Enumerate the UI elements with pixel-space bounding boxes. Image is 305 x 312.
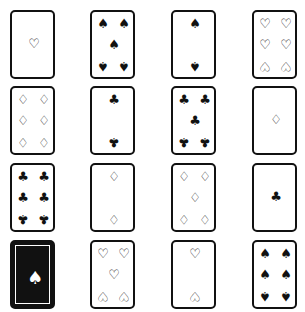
card-clubs-2[interactable]: ♣♣ [90, 86, 135, 155]
heart-icon: ♡ [97, 290, 109, 302]
card-diamonds-2[interactable]: ♢♢ [90, 163, 135, 232]
card-spades-5[interactable]: ♠♠♠♠♠ [90, 10, 135, 79]
club-icon: ♣ [17, 192, 29, 204]
diamond-icon: ♢ [270, 114, 282, 126]
card-diamonds-6[interactable]: ♢♢♢♢♢♢ [10, 86, 55, 155]
club-icon: ♣ [178, 136, 190, 148]
card-spades-2[interactable]: ♠♠ [171, 10, 216, 79]
club-icon: ♣ [17, 171, 29, 183]
spade-icon: ♠ [189, 60, 201, 72]
club-icon: ♣ [38, 213, 50, 225]
club-icon: ♣ [108, 94, 120, 106]
card-clubs-1[interactable]: ♣ [252, 163, 297, 232]
diamond-icon: ♢ [17, 115, 29, 127]
spade-icon: ♠ [259, 248, 271, 260]
card-hearts-5[interactable]: ♡♡♡♡♡ [90, 240, 135, 309]
card-grid: ♡♠♠♠♠♠♠♠♡♡♡♡♡♡♢♢♢♢♢♢♣♣♣♣♣♣♣♢♣♣♣♣♣♣♢♢♢♢♢♢… [0, 0, 305, 312]
heart-icon: ♡ [280, 18, 292, 30]
spade-icon: ♠ [118, 18, 130, 30]
heart-icon: ♡ [259, 60, 271, 72]
spade-icon: ♠ [280, 290, 292, 302]
spade-icon: ♠ [280, 269, 292, 281]
heart-icon: ♡ [108, 269, 120, 281]
card-back-0[interactable]: ♠ [10, 240, 55, 309]
card-diamonds-1[interactable]: ♢ [252, 86, 297, 155]
club-icon: ♣ [17, 213, 29, 225]
spade-icon: ♠ [108, 39, 120, 51]
heart-icon: ♡ [280, 60, 292, 72]
diamond-icon: ♢ [17, 94, 29, 106]
diamond-icon: ♢ [38, 94, 50, 106]
heart-icon: ♡ [189, 290, 201, 302]
diamond-icon: ♢ [38, 136, 50, 148]
heart-icon: ♡ [118, 248, 130, 260]
spade-icon: ♠ [259, 269, 271, 281]
spade-icon: ♠ [97, 18, 109, 30]
spade-icon: ♠ [118, 60, 130, 72]
club-icon: ♣ [199, 94, 211, 106]
spade-icon: ♠ [97, 60, 109, 72]
diamond-icon: ♢ [38, 115, 50, 127]
diamond-icon: ♢ [189, 192, 201, 204]
club-icon: ♣ [178, 94, 190, 106]
diamond-icon: ♢ [199, 171, 211, 183]
spade-icon: ♠ [189, 18, 201, 30]
spade-icon: ♠ [259, 290, 271, 302]
card-spades-6[interactable]: ♠♠♠♠♠♠ [252, 240, 297, 309]
diamond-icon: ♢ [108, 213, 120, 225]
club-icon: ♣ [199, 136, 211, 148]
card-hearts-1[interactable]: ♡ [10, 10, 55, 79]
heart-icon: ♡ [280, 39, 292, 51]
diamond-icon: ♢ [17, 136, 29, 148]
club-icon: ♣ [38, 171, 50, 183]
club-icon: ♣ [108, 136, 120, 148]
card-clubs-5[interactable]: ♣♣♣♣♣ [171, 86, 216, 155]
card-clubs-6[interactable]: ♣♣♣♣♣♣ [10, 163, 55, 232]
heart-icon: ♡ [118, 290, 130, 302]
card-hearts-2[interactable]: ♡♡ [171, 240, 216, 309]
heart-icon: ♡ [189, 248, 201, 260]
diamond-icon: ♢ [178, 171, 190, 183]
heart-icon: ♡ [28, 38, 40, 50]
diamond-icon: ♢ [178, 213, 190, 225]
heart-icon: ♡ [97, 248, 109, 260]
spade-icon: ♠ [27, 272, 39, 284]
diamond-icon: ♢ [199, 213, 211, 225]
heart-icon: ♡ [259, 39, 271, 51]
heart-icon: ♡ [259, 18, 271, 30]
card-hearts-6[interactable]: ♡♡♡♡♡♡ [252, 10, 297, 79]
card-diamonds-5[interactable]: ♢♢♢♢♢ [171, 163, 216, 232]
club-icon: ♣ [189, 115, 201, 127]
club-icon: ♣ [38, 192, 50, 204]
club-icon: ♣ [270, 191, 282, 203]
diamond-icon: ♢ [108, 171, 120, 183]
spade-icon: ♠ [280, 248, 292, 260]
